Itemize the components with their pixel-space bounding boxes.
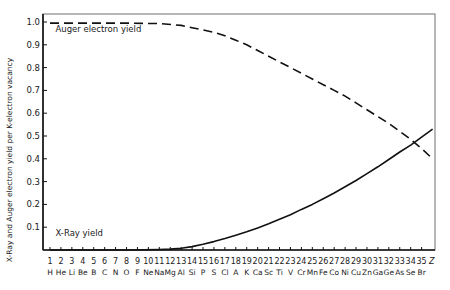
- x-tick-element: Be: [78, 268, 88, 277]
- k-shell-yield-chart: 0.10.20.30.40.50.60.70.80.91.0 1H2He3Li4…: [0, 0, 450, 290]
- y-tick-label: 0.2: [26, 199, 40, 209]
- x-tick-element: He: [56, 268, 67, 277]
- x-tick-element: B: [91, 268, 96, 277]
- x-tick-number: 35: [417, 257, 427, 266]
- xray-yield-curve: [50, 129, 433, 250]
- x-tick-element: Si: [189, 268, 196, 277]
- x-tick-element: Cu: [351, 268, 361, 277]
- x-tick-number: 2: [58, 257, 63, 266]
- x-tick-element: K: [244, 268, 250, 277]
- plot-border: [43, 14, 435, 250]
- x-tick-element: Zn: [362, 268, 372, 277]
- y-axis-title: X-Ray and Auger electron yield per K-ele…: [5, 57, 14, 262]
- x-tick-element: Ge: [384, 268, 395, 277]
- y-tick-label: 0.6: [26, 108, 40, 118]
- x-tick-element: Cr: [297, 268, 306, 277]
- x-tick-number: 8: [124, 257, 129, 266]
- x-tick-element: Li: [69, 268, 75, 277]
- x-tick-number: 23: [285, 257, 295, 266]
- x-tick-element: P: [201, 268, 206, 277]
- x-tick-number: 21: [264, 257, 274, 266]
- x-tick-number: 26: [318, 257, 328, 266]
- x-tick-element: Fe: [319, 268, 328, 277]
- y-tick-label: 0.9: [26, 40, 40, 50]
- x-tick-element: C: [102, 268, 107, 277]
- series-lines: [50, 23, 433, 250]
- x-tick-element: Ni: [341, 268, 349, 277]
- x-tick-number: 16: [209, 257, 219, 266]
- x-axis-end-label: Z: [428, 257, 435, 266]
- x-tick-number: 4: [80, 257, 85, 266]
- y-tick-label: 0.1: [26, 222, 40, 232]
- x-tick-number: 14: [187, 257, 197, 266]
- x-tick-element: Cl: [221, 268, 228, 277]
- x-tick-number: 15: [198, 257, 208, 266]
- x-tick-number: 34: [406, 257, 416, 266]
- series-labels: Auger electron yieldX-Ray yield: [55, 24, 141, 238]
- x-tick-element: V: [288, 268, 294, 277]
- xray-yield-label: X-Ray yield: [55, 228, 103, 238]
- x-tick-element: Ga: [373, 268, 383, 277]
- x-tick-element: Ne: [143, 268, 154, 277]
- x-tick-element: Na: [154, 268, 164, 277]
- x-tick-number: 9: [135, 257, 140, 266]
- x-tick-element: N: [113, 268, 119, 277]
- x-tick-element: Mg: [165, 268, 176, 277]
- x-axis-ticks: 1H2He3Li4Be5B6C7N8O9F10Ne11Na12Mg13Al14S…: [47, 247, 427, 277]
- y-tick-label: 0.7: [26, 85, 40, 95]
- x-tick-number: 5: [91, 257, 96, 266]
- x-tick-number: 32: [384, 257, 394, 266]
- x-tick-element: F: [135, 268, 139, 277]
- x-tick-element: Co: [329, 268, 339, 277]
- x-tick-number: 1: [47, 257, 52, 266]
- x-tick-element: As: [395, 268, 404, 277]
- y-tick-label: 0.4: [26, 154, 40, 164]
- y-tick-label: 0.5: [26, 131, 40, 141]
- x-tick-number: 17: [220, 257, 230, 266]
- x-tick-number: 24: [296, 257, 306, 266]
- x-tick-number: 25: [307, 257, 317, 266]
- x-tick-element: H: [47, 268, 53, 277]
- x-tick-element: Mn: [307, 268, 318, 277]
- x-tick-element: Sc: [264, 268, 273, 277]
- x-tick-number: 13: [176, 257, 186, 266]
- x-tick-number: 22: [274, 257, 284, 266]
- x-tick-element: O: [124, 268, 130, 277]
- x-tick-number: 7: [113, 257, 118, 266]
- y-tick-label: 1.0: [26, 17, 40, 27]
- x-tick-number: 27: [329, 257, 339, 266]
- x-tick-number: 30: [362, 257, 372, 266]
- y-axis-ticks: 0.10.20.30.40.50.60.70.80.91.0: [26, 17, 47, 232]
- x-tick-number: 6: [102, 257, 107, 266]
- x-tick-number: 33: [395, 257, 405, 266]
- x-tick-number: 31: [373, 257, 383, 266]
- x-tick-number: 20: [253, 257, 263, 266]
- plot-frame: [43, 14, 435, 250]
- x-tick-element: Br: [418, 268, 427, 277]
- x-tick-element: Se: [406, 268, 416, 277]
- x-tick-element: Ca: [253, 268, 263, 277]
- x-tick-number: 18: [231, 257, 241, 266]
- x-tick-number: 12: [165, 257, 175, 266]
- y-tick-label: 0.3: [26, 177, 40, 187]
- x-tick-element: A: [233, 268, 239, 277]
- x-tick-number: 10: [143, 257, 153, 266]
- x-tick-number: 28: [340, 257, 350, 266]
- y-tick-label: 0.8: [26, 63, 40, 73]
- x-tick-element: S: [212, 268, 217, 277]
- auger-yield-curve: [50, 23, 433, 159]
- x-tick-element: Al: [178, 268, 185, 277]
- x-tick-number: 3: [69, 257, 74, 266]
- x-tick-number: 19: [242, 257, 252, 266]
- x-tick-number: 11: [154, 257, 164, 266]
- auger-yield-label: Auger electron yield: [55, 24, 141, 34]
- x-tick-number: 29: [351, 257, 361, 266]
- x-tick-element: Ti: [275, 268, 282, 277]
- chart-canvas: 0.10.20.30.40.50.60.70.80.91.0 1H2He3Li4…: [0, 0, 450, 290]
